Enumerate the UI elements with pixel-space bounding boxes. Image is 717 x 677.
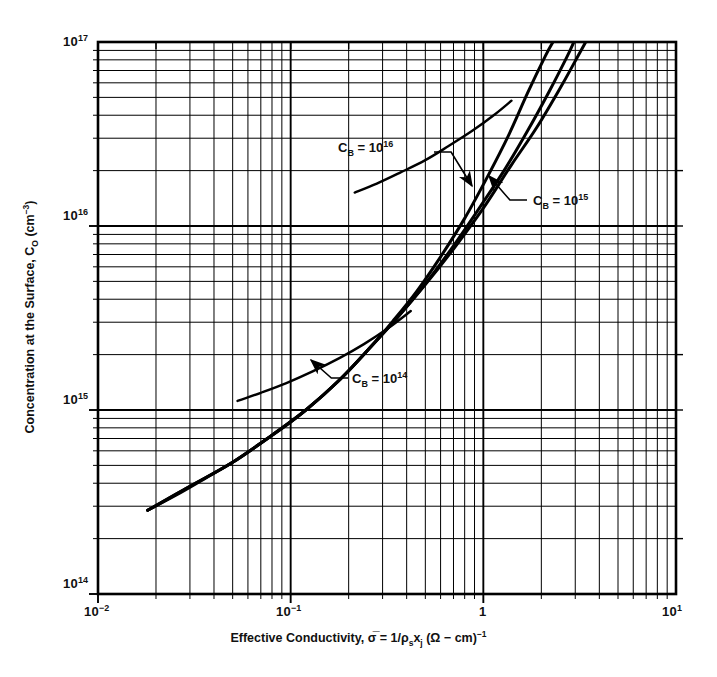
plot-frame bbox=[98, 42, 676, 594]
curve-3 bbox=[238, 311, 411, 401]
figure-container: 10−2 10−1 1 101 1017 1016 1015 1014 Effe… bbox=[0, 0, 717, 677]
grid-minor-lines bbox=[98, 42, 676, 594]
chart-canvas bbox=[0, 0, 717, 677]
curve-label-cb15: CB = 1015 bbox=[533, 193, 588, 208]
curve-2 bbox=[148, 42, 553, 510]
x-tick-label-1: 10−1 bbox=[276, 604, 302, 619]
curve-1 bbox=[148, 42, 574, 510]
leader-cb15-annotation bbox=[489, 176, 527, 200]
x-tick-label-3: 101 bbox=[662, 604, 682, 619]
curve-label-cb16: CB = 1016 bbox=[338, 140, 393, 155]
grid-major-lines bbox=[98, 42, 676, 594]
curve-label-cb14: CB = 1014 bbox=[352, 371, 407, 386]
data-curves bbox=[148, 42, 586, 510]
y-tick-label-1: 1015 bbox=[63, 392, 88, 407]
x-tick-label-0: 10−2 bbox=[84, 604, 110, 619]
y-tick-label-0: 1014 bbox=[63, 576, 88, 591]
y-axis-title: Concentration at the Surface, CO (cm−3) bbox=[23, 157, 37, 477]
x-axis-title: Effective Conductivity, σ̅ = 1/ρsxj (Ω −… bbox=[0, 631, 717, 645]
y-tick-label-2: 1016 bbox=[63, 208, 88, 223]
y-tick-label-3: 1017 bbox=[63, 34, 88, 49]
x-tick-label-2: 1 bbox=[479, 604, 486, 619]
